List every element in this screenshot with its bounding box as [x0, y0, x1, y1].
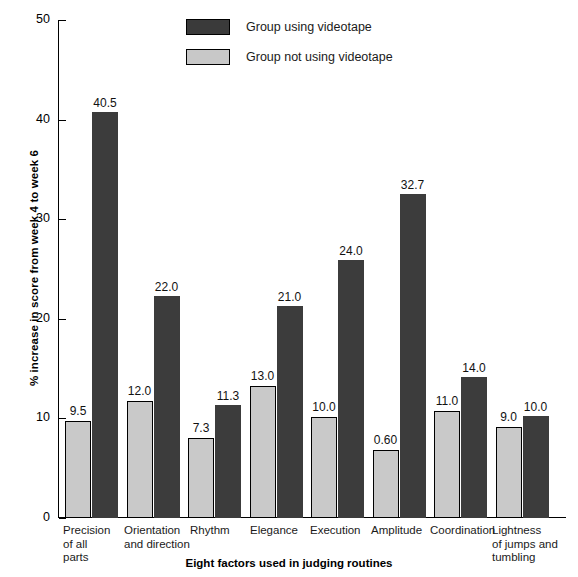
x-axis-category-label-line: of jumps and	[492, 538, 558, 552]
bar-not-using-videotape[interactable]: 0.60	[373, 450, 399, 518]
x-axis-category-label-line: and direction	[124, 538, 190, 552]
x-axis-category-label-line: Rhythm	[190, 524, 230, 538]
x-axis-category-label: Orientationand direction	[124, 524, 190, 551]
bar-not-using-videotape[interactable]: 9.5	[65, 421, 91, 518]
bar-using-videotape[interactable]: 24.0	[338, 260, 364, 518]
chart-figure: Group using videotape Group not using vi…	[0, 0, 578, 577]
x-axis-title: Eight factors used in judging routines	[0, 557, 578, 569]
x-axis-category-label: Elegance	[250, 524, 298, 538]
bar-value-label: 12.0	[128, 384, 151, 398]
bar-value-label: 32.7	[401, 178, 424, 192]
bar-value-label: 40.5	[93, 96, 116, 110]
y-axis-tick-label: 0	[18, 510, 50, 524]
bar-value-label: 21.0	[278, 290, 301, 304]
bar-not-using-videotape[interactable]: 11.0	[434, 411, 460, 518]
y-axis-tick-label: 50	[18, 12, 50, 26]
bar-not-using-videotape[interactable]: 9.0	[496, 427, 522, 518]
bar-group: 10.024.0	[311, 20, 364, 518]
bar-value-label: 7.3	[193, 421, 210, 435]
bar-group: 9.010.0	[496, 20, 549, 518]
bar-group: 13.021.0	[250, 20, 303, 518]
bar-not-using-videotape[interactable]: 10.0	[311, 417, 337, 518]
bar-group: 12.022.0	[127, 20, 180, 518]
bar-not-using-videotape[interactable]: 7.3	[188, 438, 214, 518]
bar-group: 0.6032.7	[373, 20, 426, 518]
bar-value-label: 24.0	[339, 244, 362, 258]
x-axis-category-label-line: of all	[63, 538, 110, 552]
bar-using-videotape[interactable]: 40.5	[92, 112, 118, 518]
x-axis-category-label-line: Execution	[310, 524, 361, 538]
bar-group: 9.540.5	[65, 20, 118, 518]
bar-value-label: 9.5	[70, 404, 87, 418]
x-axis-category-label: Execution	[310, 524, 361, 538]
bar-using-videotape[interactable]: 10.0	[523, 416, 549, 518]
x-axis-category-label-line: Precision	[63, 524, 110, 538]
x-axis-category-label-line: Coordination	[430, 524, 495, 538]
bar-value-label: 9.0	[500, 410, 517, 424]
bar-using-videotape[interactable]: 21.0	[277, 306, 303, 518]
bar-not-using-videotape[interactable]: 13.0	[250, 386, 276, 518]
bar-using-videotape[interactable]: 14.0	[461, 377, 487, 518]
y-axis-title: % increase in score from week 4 to week …	[28, 118, 40, 418]
x-axis-category-label-line: Orientation	[124, 524, 190, 538]
bar-using-videotape[interactable]: 32.7	[400, 194, 426, 518]
bar-value-label: 13.0	[251, 369, 274, 383]
bar-using-videotape[interactable]: 11.3	[215, 405, 241, 518]
bar-value-label: 10.0	[312, 400, 335, 414]
x-axis-category-label-line: Amplitude	[371, 524, 422, 538]
bar-group: 11.014.0	[434, 20, 487, 518]
y-axis-tick-label: 20	[18, 311, 50, 325]
y-axis-tick-label: 30	[18, 211, 50, 225]
y-axis-tick-mark	[59, 518, 66, 519]
plot-area: 9.540.512.022.07.311.313.021.010.024.00.…	[58, 20, 566, 518]
x-axis-category-label-line: Lightness	[492, 524, 558, 538]
bar-value-label: 10.0	[524, 400, 547, 414]
x-axis-category-label: Coordination	[430, 524, 495, 538]
y-axis-tick-label: 40	[18, 112, 50, 126]
bar-value-label: 0.60	[374, 433, 397, 447]
bar-value-label: 11.3	[217, 389, 239, 403]
x-axis-category-label: Amplitude	[371, 524, 422, 538]
y-axis-tick-label: 10	[18, 410, 50, 424]
bar-value-label: 22.0	[155, 280, 178, 294]
bar-value-label: 11.0	[436, 394, 458, 408]
bar-using-videotape[interactable]: 22.0	[154, 296, 180, 518]
bar-not-using-videotape[interactable]: 12.0	[127, 401, 153, 518]
bar-value-label: 14.0	[462, 361, 485, 375]
x-axis-category-label: Rhythm	[190, 524, 230, 538]
bar-group: 7.311.3	[188, 20, 241, 518]
x-axis-category-label-line: Elegance	[250, 524, 298, 538]
